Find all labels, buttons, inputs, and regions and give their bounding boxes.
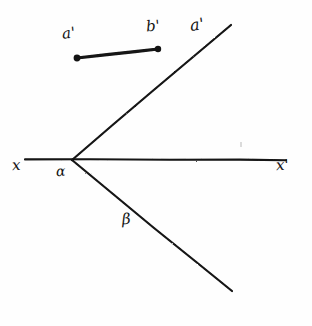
paper-speck xyxy=(240,142,242,147)
label-axis-right-x-prime: x' xyxy=(276,158,289,174)
segment-endpoint-a-dot xyxy=(74,55,81,62)
label-axis-left-x: x xyxy=(12,158,21,173)
label-segment-point-b-prime: b' xyxy=(145,18,160,34)
segment-ab-line xyxy=(77,49,158,58)
label-segment-point-a-prime: a' xyxy=(61,25,76,41)
diagram-canvas: a' b' a' x x' α β xyxy=(0,0,312,326)
label-lower-ray-beta: β xyxy=(121,212,131,228)
segment-endpoint-b-dot xyxy=(155,46,161,52)
horizontal-axis-line xyxy=(25,159,286,160)
lower-ray-line xyxy=(72,160,232,291)
label-vertex-angle-alpha: α xyxy=(56,164,66,179)
label-upper-ray-alpha-prime: a' xyxy=(189,16,205,34)
upper-ray-line xyxy=(72,25,231,160)
diagram-svg xyxy=(0,0,312,326)
